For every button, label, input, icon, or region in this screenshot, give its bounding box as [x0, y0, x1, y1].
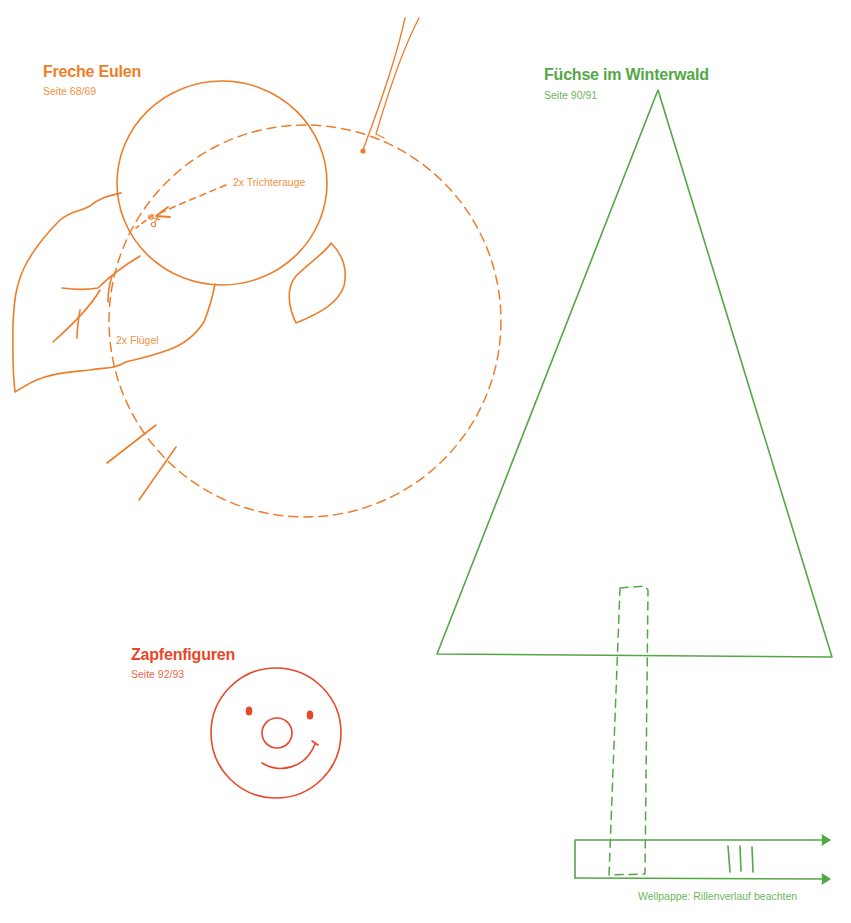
- cardboard-strip-outline: [575, 840, 828, 878]
- section-page-fuechse: Seite 90/91: [544, 89, 597, 101]
- pattern-sheet: [0, 0, 851, 923]
- section-title-fuechse: Füchse im Winterwald: [544, 66, 709, 84]
- corrugation-mark-2: [740, 846, 741, 871]
- owl-wing-vein-small1: [77, 310, 80, 338]
- scissors-icon: [148, 212, 162, 227]
- tree-trunk-dashed: [609, 586, 648, 875]
- face-outline-circle: [211, 668, 341, 798]
- corrugation-mark-3: [752, 847, 753, 872]
- owl-foot-line-2: [139, 447, 176, 500]
- annotation-fluegel: 2x Flügel: [116, 334, 159, 346]
- annotation-trichterauge: 2x Trichterauge: [233, 176, 305, 188]
- face-eye-left: [246, 707, 253, 716]
- owl-foot-line-1: [107, 425, 156, 463]
- arrow-right-icon: [822, 835, 830, 845]
- corrugation-mark-1: [728, 846, 730, 872]
- face-mouth-smile: [262, 744, 315, 768]
- section-title-zapfen: Zapfenfiguren: [131, 646, 235, 664]
- section-title-eulen: Freche Eulen: [43, 63, 141, 81]
- owl-hanger-dot: [360, 148, 365, 153]
- section-page-zapfen: Seite 92/93: [131, 668, 184, 680]
- cone-figure-face: [211, 668, 341, 798]
- tree-triangle: [437, 90, 832, 657]
- cardboard-strip-bottom: [575, 878, 828, 879]
- arrow-right-icon: [822, 874, 830, 884]
- annotation-wellpappe: Wellpappe: Rillenverlauf beachten: [638, 890, 797, 902]
- section-page-eulen: Seite 68/69: [43, 85, 96, 97]
- face-eye-right: [307, 711, 314, 720]
- tree-templates: [437, 90, 832, 884]
- owl-hanger-line-1: [363, 18, 405, 150]
- owl-hanger-line-2: [376, 18, 419, 138]
- owl-eye-pointer-dashed: [160, 185, 226, 213]
- face-nose-circle: [262, 718, 292, 748]
- owl-beak-shape: [289, 243, 345, 323]
- owl-wing-vein-main: [62, 256, 140, 290]
